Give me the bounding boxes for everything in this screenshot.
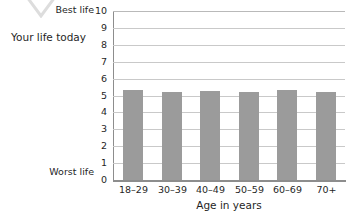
x-axis-title: Age in years <box>113 199 345 211</box>
y-tick-label: 4 <box>85 107 107 117</box>
y-tick-label: 5 <box>85 91 107 101</box>
x-tick-label: 40–49 <box>191 184 230 195</box>
x-tick-label: 18–29 <box>114 184 153 195</box>
y-tick-label: 1 <box>85 158 107 168</box>
bar <box>239 92 259 180</box>
x-tick-label: 60–69 <box>268 184 307 195</box>
y-tick-label: 10 <box>85 6 107 16</box>
bar <box>123 90 143 180</box>
x-axis-line <box>113 180 346 182</box>
bar <box>162 92 182 180</box>
y-axis-title: Your life today <box>2 31 86 44</box>
x-tick-label: 30–39 <box>153 184 192 195</box>
y-tick-label: 8 <box>85 40 107 50</box>
y-tick-label: 9 <box>85 23 107 33</box>
y-tick-label: 7 <box>85 57 107 67</box>
bar-series <box>114 11 345 180</box>
y-tick-label: 0 <box>85 175 107 185</box>
bar <box>200 91 220 180</box>
y-tick-label: 6 <box>85 74 107 84</box>
worst-life-anchor-label: Worst life <box>24 166 94 177</box>
x-tick-label: 70+ <box>307 184 346 195</box>
y-tick-label: 2 <box>85 141 107 151</box>
bar <box>277 90 297 180</box>
y-tick-label: 3 <box>85 124 107 134</box>
x-tick-label: 50–59 <box>230 184 269 195</box>
best-life-anchor-label: Best life <box>24 4 94 15</box>
bar <box>316 92 336 180</box>
